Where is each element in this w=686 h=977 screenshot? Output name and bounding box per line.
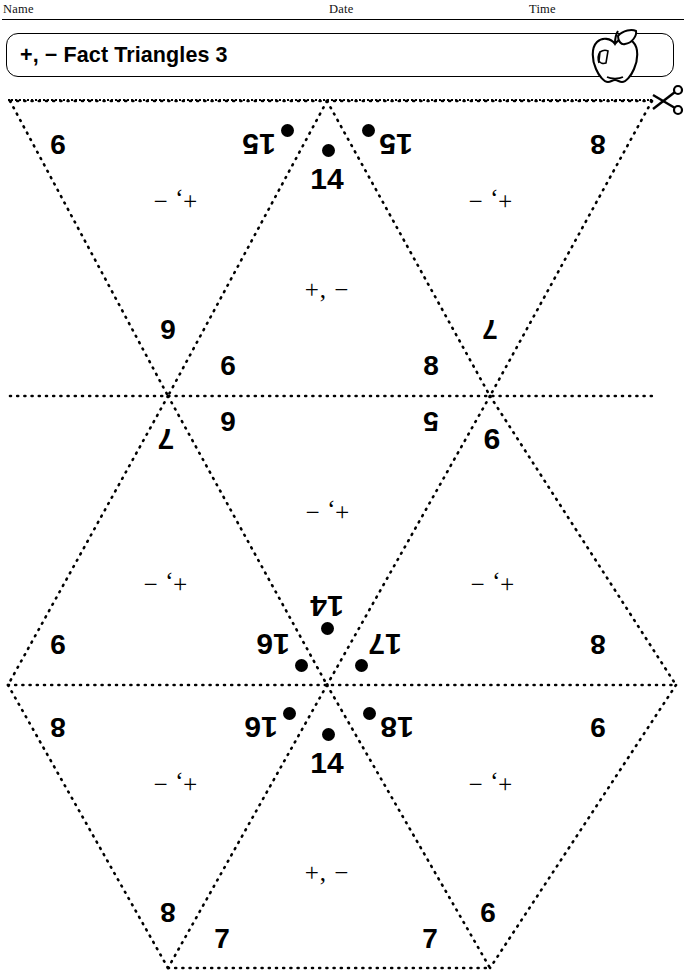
- date-label: Date: [329, 2, 353, 16]
- triangle-bottom-center-corner-right: 7: [422, 925, 438, 953]
- triangle-middle-center-apex-dot: [321, 622, 334, 635]
- triangle-middle-center-operation: +, −: [305, 500, 350, 525]
- triangle-top-right-operation: +, −: [468, 189, 513, 214]
- triangle-middle-center-apex: 14: [310, 591, 343, 621]
- triangle-top-center-apex: 14: [310, 164, 343, 194]
- page-title: +, − Fact Triangles 3: [20, 43, 228, 68]
- triangle-middle-right-corner-right: 17: [368, 629, 401, 659]
- time-label: Time: [529, 2, 556, 16]
- triangle-middle-right-corner-left: 8: [590, 630, 606, 658]
- triangle-top-left-corner-left: 9: [50, 130, 66, 158]
- triangle-top-center-apex-dot: [322, 144, 335, 157]
- triangle-middle-left-corner-dot: [295, 659, 308, 672]
- triangle-top-left-apex: 15: [242, 129, 275, 159]
- triangle-middle-right-corner-dot: [355, 659, 368, 672]
- fact-triangles-grid: 9 15 6 +, − 14 6 8 +, − 15 8 7 +, − 7 9 …: [0, 99, 686, 977]
- triangle-top-left-corner-right: 6: [160, 315, 176, 343]
- triangle-middle-center-corner-right: 6: [220, 407, 236, 435]
- triangle-bottom-left-operation: +, −: [153, 772, 198, 797]
- triangle-top-left-apex-dot: [281, 124, 294, 137]
- triangle-top-center-operation: +, −: [305, 277, 350, 302]
- triangle-bottom-right-operation: +, −: [468, 772, 513, 797]
- triangle-bottom-center-operation: +, −: [305, 860, 350, 885]
- triangle-bottom-left-corner-right: 8: [160, 898, 176, 926]
- triangle-top-center-corner-right: 8: [423, 352, 439, 380]
- triangle-top-center-corner-left: 6: [220, 352, 236, 380]
- triangle-middle-right-apex: 9: [484, 424, 501, 454]
- header-rule: [2, 19, 684, 20]
- apple-icon: [578, 27, 652, 85]
- triangle-bottom-right-apex-dot: [363, 707, 376, 720]
- triangle-bottom-left-apex-dot: [283, 707, 296, 720]
- triangle-bottom-center-apex-dot: [322, 728, 335, 741]
- triangle-middle-left-operation: +, −: [143, 572, 188, 597]
- triangle-top-right-corner-left: 7: [482, 315, 498, 343]
- triangle-top-right-apex-dot: [362, 124, 375, 137]
- triangle-middle-left-apex: 7: [158, 424, 175, 454]
- triangle-bottom-center-apex: 14: [310, 748, 343, 778]
- triangle-bottom-center-corner-left: 7: [214, 925, 230, 953]
- triangle-top-right-apex: 15: [379, 129, 412, 159]
- name-label: Name: [3, 2, 34, 16]
- triangle-middle-left-corner-left: 16: [256, 629, 289, 659]
- triangle-bottom-left-corner-left: 8: [50, 713, 66, 741]
- triangle-bottom-right-corner-right: 9: [590, 713, 606, 741]
- triangle-bottom-left-apex: 16: [244, 712, 277, 742]
- triangle-bottom-right-apex: 18: [380, 712, 413, 742]
- triangle-top-left-operation: +, −: [153, 189, 198, 214]
- triangle-middle-right-operation: +, −: [470, 572, 515, 597]
- triangle-middle-center-corner-left: 5: [423, 407, 439, 435]
- triangle-middle-left-corner-right: 9: [50, 630, 66, 658]
- triangle-bottom-right-corner-left: 9: [480, 898, 496, 926]
- triangle-top-right-corner-right: 8: [590, 130, 606, 158]
